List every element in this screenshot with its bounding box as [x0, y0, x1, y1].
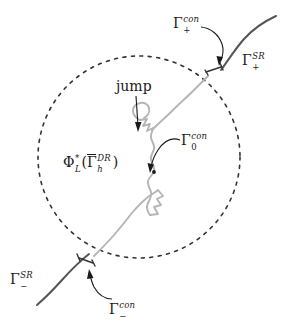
- gamma-minus-sr-label: ΓSR−: [10, 272, 20, 286]
- gamma-zero-con-label: Γcon0: [181, 133, 191, 147]
- gamma-plus-con-superscript: con: [183, 15, 199, 24]
- gamma-zero-subscript: 0: [191, 143, 197, 152]
- gamma-plus-sr-label: ΓSR+: [242, 53, 252, 67]
- jump-arrow: [135, 96, 142, 132]
- gamma-plus-con-arrow: [201, 27, 223, 66]
- gamma-minus-con-superscript: con: [119, 301, 135, 310]
- gamma-bar-subscript: h: [97, 165, 103, 174]
- phi-close-paren: ): [113, 154, 118, 170]
- phi-subscript: L: [75, 165, 81, 174]
- jump-label: jump: [116, 78, 152, 94]
- rough-interface-curve-upper: [152, 76, 208, 130]
- gamma-symbol: Γ: [181, 132, 191, 148]
- gamma-minus-con-subscript: −: [119, 312, 126, 321]
- phi-symbol: Φ: [63, 154, 74, 170]
- gamma-symbol: Γ: [109, 301, 119, 317]
- gamma-plus-con-subscript: +: [183, 26, 190, 35]
- figure-canvas: jump Φ*L(ΓDRh) Γcon0 Γcon+ ΓSR+ ΓSR− Γco…: [0, 0, 294, 326]
- gamma-symbol: Γ: [242, 52, 252, 68]
- gamma-symbol: Γ: [173, 15, 183, 31]
- gamma-minus-con-label: Γcon−: [109, 302, 119, 316]
- phi-superscript: *: [75, 154, 79, 163]
- gamma-plus-sr-superscript: SR: [252, 52, 265, 61]
- gamma-bar-superscript: DR: [97, 154, 111, 163]
- gamma-minus-sr-subscript: −: [20, 282, 27, 291]
- gamma-zero-point-dot: [152, 170, 156, 174]
- gamma-bar-symbol: Γ: [87, 155, 97, 169]
- phi-operator-label: Φ*L(ΓDRh): [63, 155, 118, 169]
- gamma-symbol: Γ: [10, 271, 20, 287]
- rough-interface-curve-jump-hook: [133, 103, 149, 120]
- bracket-plus: [205, 63, 223, 75]
- smooth-curve-minus-sr: [37, 254, 89, 305]
- gamma-minus-sr-superscript: SR: [20, 271, 33, 280]
- gamma-plus-con-label: Γcon+: [173, 16, 183, 30]
- gamma-minus-con-arrow: [87, 269, 112, 299]
- gamma-plus-sr-subscript: +: [252, 63, 259, 72]
- jump-label-text: jump: [116, 78, 152, 94]
- diagram-svg: [0, 0, 294, 326]
- rough-interface-curve-lower: [94, 190, 163, 256]
- gamma-zero-superscript: con: [191, 132, 207, 141]
- gamma-zero-arrow: [148, 139, 181, 173]
